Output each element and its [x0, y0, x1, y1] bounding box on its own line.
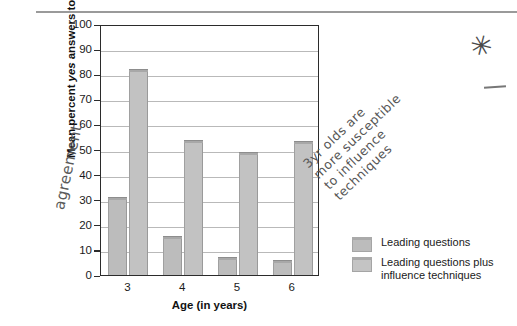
x-axis-tick-label-4: 4 [167, 281, 197, 293]
bar-3-series2 [129, 69, 148, 275]
y-axis-tick-label: 10 [66, 245, 92, 257]
handwritten-annotation-agreement: agreement [47, 106, 90, 227]
plot-area [100, 25, 319, 276]
handwritten-note-line2: more susceptible [310, 25, 471, 182]
bar-top-cap [184, 140, 203, 143]
legend-item-leading-questions: Leading questions [352, 236, 512, 253]
y-axis-tick-label: 100 [66, 19, 92, 31]
chart-page: Mean percent yes answers to misleading q… [0, 0, 517, 326]
legend-item-leading-questions-plus-influence: Leading questions plus influence techniq… [352, 256, 512, 282]
y-axis-tick-label: 70 [66, 94, 92, 106]
top-divider-rule [36, 11, 517, 13]
bar-top-cap [239, 152, 258, 155]
handwritten-annotation-note: 3yr olds are more susceptible to influen… [300, 14, 493, 203]
chart-legend: Leading questions Leading questions plus… [352, 236, 512, 285]
bar-6-series1 [273, 260, 292, 275]
bar-5-series2 [239, 152, 258, 275]
legend-swatch-series1 [352, 237, 372, 252]
y-axis-tick-label: 20 [66, 220, 92, 232]
bar-top-cap [129, 69, 148, 72]
legend-swatch-series2 [352, 257, 372, 272]
y-axis-tick-label: 0 [66, 270, 92, 282]
x-axis-title: Age (in years) [100, 299, 319, 311]
handwritten-note-line3: to influence [321, 36, 482, 193]
y-axis-tick-label: 90 [66, 44, 92, 56]
legend-label-series1: Leading questions [381, 236, 512, 249]
x-axis-tick-label-5: 5 [222, 281, 252, 293]
bar-top-cap [294, 141, 313, 144]
bar-5-series1 [218, 257, 237, 275]
bar-4-series2 [184, 140, 203, 276]
x-axis-tick-label-3: 3 [112, 281, 142, 293]
bar-top-cap [108, 197, 127, 200]
bar-top-cap [218, 257, 237, 260]
handwritten-dash-mark [484, 85, 506, 89]
bar-3-series1 [108, 197, 127, 275]
bar-top-cap [273, 260, 292, 263]
gridline [101, 51, 318, 52]
legend-label-series2-line2: influence techniques [381, 269, 512, 282]
y-axis-tick-label: 80 [66, 69, 92, 81]
bar-4-series1 [163, 236, 182, 275]
bar-top-cap [163, 236, 182, 239]
legend-label-series2-line1: Leading questions plus [381, 256, 512, 269]
x-axis-tick-label-6: 6 [277, 281, 307, 293]
